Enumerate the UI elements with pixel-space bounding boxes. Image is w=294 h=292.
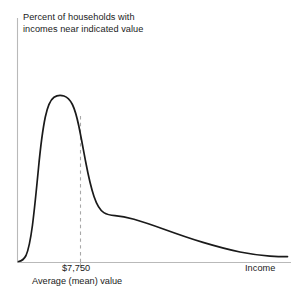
x-axis-title: Income (245, 262, 275, 274)
x-axis-tick-label-mean: $7,750 (62, 263, 90, 273)
chart-plot-area (0, 0, 294, 292)
x-axis-mean-caption: Average (mean) value (32, 276, 122, 286)
income-distribution-chart: Percent of households withincomes near i… (0, 0, 294, 292)
distribution-curve (19, 95, 288, 261)
y-axis-title: Percent of households withincomes near i… (23, 11, 143, 36)
y-axis-title-line-1: Percent of households with (23, 12, 135, 22)
y-axis-title-line-2: incomes near indicated value (23, 23, 143, 35)
